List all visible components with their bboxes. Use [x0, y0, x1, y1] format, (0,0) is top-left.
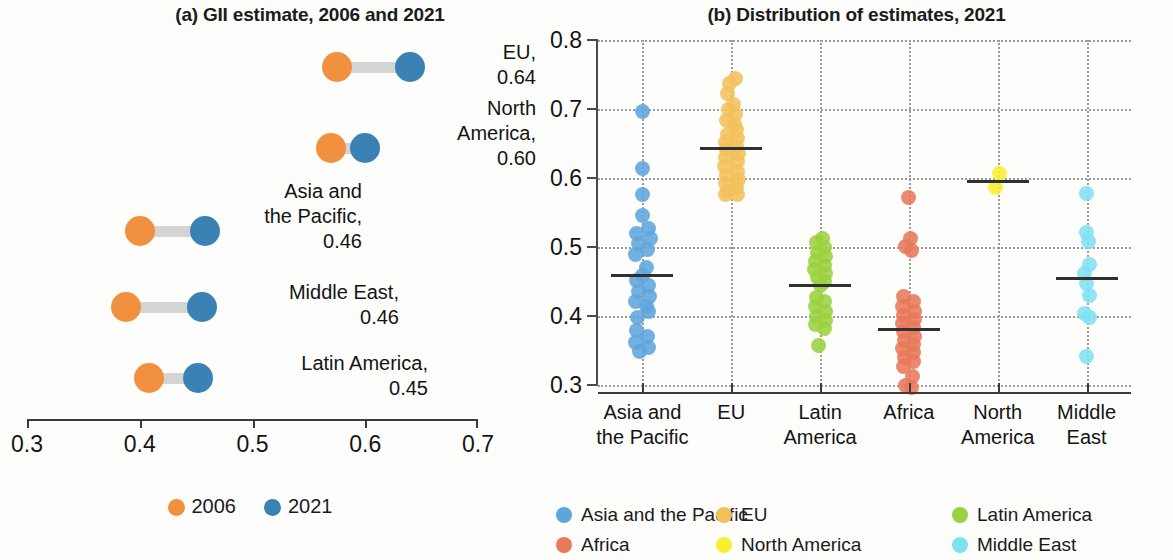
legend-label: Africa [581, 534, 630, 555]
legend-swatch-icon [264, 499, 281, 516]
legend-row: Asia and the PacificEULatin America [556, 500, 1173, 530]
strip-point[interactable] [1081, 234, 1096, 249]
panel-a-plot-area: EU, 0.64North America, 0.60Asia and the … [0, 0, 540, 560]
y-axis-tick [587, 108, 598, 110]
strip-point[interactable] [718, 187, 733, 202]
legend-label: 2021 [288, 495, 333, 517]
mean-bar [700, 147, 762, 150]
mean-bar [1056, 277, 1118, 280]
y-axis-tick-label: 0.3 [550, 372, 582, 399]
panel-a-x-axis: 0.30.40.50.60.7 [27, 419, 478, 420]
y-gridline [598, 316, 1131, 318]
panel-b-plot-area: 0.30.40.50.60.70.8 [598, 40, 1131, 385]
y-gridline [598, 109, 1131, 111]
panel-b-x-axis: Asia and the PacificEULatin AmericaAfric… [598, 392, 1131, 394]
category-gridline [998, 40, 1000, 385]
legend-item[interactable]: Africa [556, 530, 630, 560]
strip-point[interactable] [904, 243, 919, 258]
panel-b-legend: Asia and the PacificEULatin AmericaAfric… [556, 500, 1173, 560]
dumbbell-row-label: Latin America, 0.45 [228, 351, 428, 401]
legend-label: Latin America [977, 504, 1092, 525]
dot-2021[interactable] [350, 133, 380, 163]
panel-b-distribution-strip: (b) Distribution of estimates, 2021 0.30… [540, 0, 1173, 560]
strip-point[interactable] [811, 338, 826, 353]
strip-point[interactable] [635, 161, 650, 176]
dot-2006[interactable] [111, 292, 141, 322]
x-axis-tick [365, 419, 367, 428]
y-axis-tick-label: 0.4 [550, 303, 582, 330]
y-axis-tick-label: 0.7 [550, 96, 582, 123]
y-axis-tick-label: 0.8 [550, 27, 582, 54]
x-axis-tick [253, 419, 255, 428]
x-axis-tick [642, 383, 644, 392]
strip-point[interactable] [1079, 349, 1094, 364]
panel-b-title: (b) Distribution of estimates, 2021 [540, 4, 1173, 26]
y-axis-tick [587, 315, 598, 317]
legend-swatch-icon [556, 507, 572, 523]
legend-swatch-icon [716, 537, 732, 553]
x-axis-tick [820, 383, 822, 392]
strip-point[interactable] [901, 190, 916, 205]
x-axis-tick-label: 0.7 [462, 431, 494, 458]
panel-b-axis-line [598, 392, 1131, 394]
strip-point[interactable] [632, 344, 647, 359]
legend-label: EU [741, 504, 767, 525]
x-axis-category-label: Middle East [1028, 400, 1146, 450]
y-axis-tick [587, 177, 598, 179]
y-axis-tick-label: 0.6 [550, 165, 582, 192]
legend-item[interactable]: Middle East [952, 530, 1076, 560]
dot-2021[interactable] [395, 52, 425, 82]
legend-item[interactable]: Latin America [952, 500, 1092, 530]
legend-item[interactable]: North America [716, 530, 861, 560]
y-gridline [598, 178, 1131, 180]
legend-label: North America [741, 534, 861, 555]
panel-b-y-axis-line [596, 40, 598, 385]
mean-bar [878, 328, 940, 331]
x-axis-tick [998, 383, 1000, 392]
x-axis-tick [731, 383, 733, 392]
y-axis-tick [587, 39, 598, 41]
strip-point[interactable] [635, 104, 650, 119]
strip-point[interactable] [628, 247, 643, 262]
dot-2006[interactable] [134, 363, 164, 393]
legend-swatch-icon [716, 507, 732, 523]
dumbbell-row-label: Middle East, 0.46 [224, 280, 399, 330]
strip-point[interactable] [1082, 288, 1097, 303]
y-gridline [598, 385, 1131, 387]
x-axis-tick [1087, 383, 1089, 392]
legend-item[interactable]: EU [716, 500, 767, 530]
category-gridline [1087, 40, 1089, 385]
dot-2021[interactable] [190, 216, 220, 246]
dot-2006[interactable] [322, 52, 352, 82]
x-axis-tick [140, 419, 142, 428]
strip-point[interactable] [1079, 186, 1094, 201]
dot-2021[interactable] [187, 292, 217, 322]
legend-swatch-icon [556, 537, 572, 553]
dot-2006[interactable] [125, 216, 155, 246]
dot-2021[interactable] [183, 363, 213, 393]
dot-2006[interactable] [316, 133, 346, 163]
mean-bar [967, 180, 1029, 183]
dumbbell-row-label: EU, 0.64 [432, 40, 536, 90]
x-axis-tick [476, 419, 478, 428]
x-axis-tick-label: 0.3 [11, 431, 43, 458]
mean-bar [611, 274, 673, 277]
x-axis-tick-label: 0.4 [124, 431, 156, 458]
x-axis-tick [909, 383, 911, 392]
legend-label: Middle East [977, 534, 1076, 555]
x-axis-tick-label: 0.5 [237, 431, 269, 458]
legend-label: 2006 [192, 495, 237, 517]
y-axis-tick [587, 384, 598, 386]
x-axis-tick [27, 419, 29, 428]
dumbbell-row-label: North America, 0.60 [400, 96, 536, 171]
legend-swatch-icon [952, 537, 968, 553]
y-axis-tick-label: 0.5 [550, 234, 582, 261]
strip-point[interactable] [817, 321, 832, 336]
legend-item[interactable]: 2006 [168, 495, 237, 518]
strip-point[interactable] [1082, 310, 1097, 325]
y-gridline [598, 247, 1131, 249]
strip-point[interactable] [992, 166, 1007, 181]
legend-item[interactable]: 2021 [264, 495, 333, 518]
legend-swatch-icon [952, 507, 968, 523]
strip-point[interactable] [635, 187, 650, 202]
